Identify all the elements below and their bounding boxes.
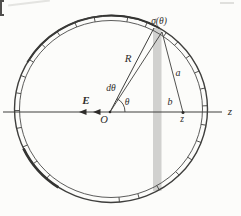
label-z-point: z [179, 114, 184, 124]
label-sigma-theta: σ(θ) [151, 16, 167, 27]
shell-tick [175, 42, 178, 46]
shell-tick [164, 32, 167, 36]
shell-tick [196, 141, 201, 143]
radius-R-line [110, 28, 154, 112]
shell-tick [195, 71, 200, 73]
origin-dot [109, 111, 112, 114]
label-origin-O: O [100, 114, 108, 125]
shell-tick [42, 44, 46, 48]
label-b: b [168, 96, 173, 107]
shell-tick [201, 124, 206, 125]
shell-tick [186, 55, 190, 58]
label-E-field: E [81, 94, 89, 106]
sphere-charge-diagram: σ(θ) R dθ θ E O a b z z [0, 0, 241, 216]
sphere-outline-inner [20, 21, 203, 198]
shell-tick [46, 175, 49, 179]
shell-tick [138, 194, 139, 199]
label-R: R [124, 52, 132, 64]
shell-tick [127, 17, 128, 22]
shell-tick [23, 145, 28, 147]
label-dtheta: dθ [106, 83, 116, 93]
label-a: a [176, 67, 181, 78]
shell-tick [176, 172, 180, 176]
figure-canvas: σ(θ) R dθ θ E O a b z z [0, 0, 241, 216]
shell-tick [33, 161, 37, 164]
label-z-axis: z [227, 105, 233, 117]
shell-dark-arc-bottomleft [24, 149, 59, 188]
label-theta: θ [125, 97, 130, 107]
shell-tick [188, 157, 192, 160]
shell-tick [21, 76, 26, 78]
shell-tick [16, 93, 21, 94]
shell-tick [145, 22, 147, 27]
e-field-arrowhead [79, 109, 87, 115]
shell-tick [17, 127, 22, 128]
ring-strip [153, 28, 162, 191]
shell-tick [29, 60, 33, 63]
shell-tick [57, 32, 60, 36]
shell-tick [200, 88, 205, 89]
